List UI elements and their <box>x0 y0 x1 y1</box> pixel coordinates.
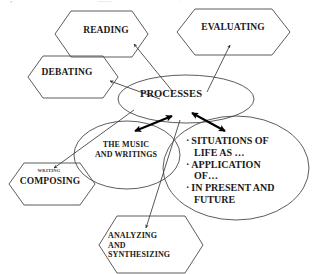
arrow-processes-to-debating <box>110 81 160 99</box>
arrow-processes-to-analyzing <box>146 120 180 228</box>
hexagon-debating <box>28 56 118 98</box>
hexagon-evaluating <box>177 9 290 55</box>
hexagon-reading <box>55 11 148 57</box>
arrow-processes-music-bidirectional <box>135 116 172 131</box>
ellipse-situations <box>163 116 309 220</box>
hexagon-analyzing-synthesizing <box>99 216 203 273</box>
arrow-processes-situations-bidirectional <box>192 113 225 131</box>
arrow-processes-to-reading <box>134 44 173 92</box>
diagram-canvas: • —— · <box>0 0 312 274</box>
arrow-processes-to-evaluating <box>207 45 230 92</box>
diagram-shapes-layer <box>0 0 312 274</box>
hexagon-composing <box>9 163 95 205</box>
arrow-processes-to-composing <box>54 110 134 168</box>
